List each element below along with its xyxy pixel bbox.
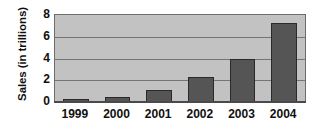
bar-slot [222,15,264,102]
bar-slot [263,15,305,102]
x-tick-label-2004: 2004 [262,106,304,124]
y-tick-label-8: 8 [30,8,50,20]
plot-area [54,14,306,103]
bar-slot [55,15,97,102]
y-tick-label-2: 2 [30,73,50,85]
y-tick-label-0: 0 [30,95,50,107]
bar-2002 [188,77,214,102]
x-axis-tick-labels: 1999 2000 2001 2002 2003 2004 [54,106,304,124]
y-tick-label-6: 6 [30,30,50,42]
bars-layer [55,15,305,102]
bar-chart-figure: Sales (in trillions) 8 6 4 2 0 1999 2000… [0,0,321,132]
bar-slot [138,15,180,102]
x-tick-label-2003: 2003 [221,106,263,124]
x-tick-label-2001: 2001 [137,106,179,124]
x-tick-label-1999: 1999 [54,106,96,124]
x-tick-label-2002: 2002 [179,106,221,124]
bar-2003 [230,59,256,103]
bar-2004 [271,23,297,102]
x-axis-line [54,101,306,103]
x-tick-label-2000: 2000 [96,106,138,124]
bar-slot [97,15,139,102]
y-axis-tick-labels: 8 6 4 2 0 [30,8,50,108]
bar-slot [180,15,222,102]
y-tick-label-4: 4 [30,52,50,64]
